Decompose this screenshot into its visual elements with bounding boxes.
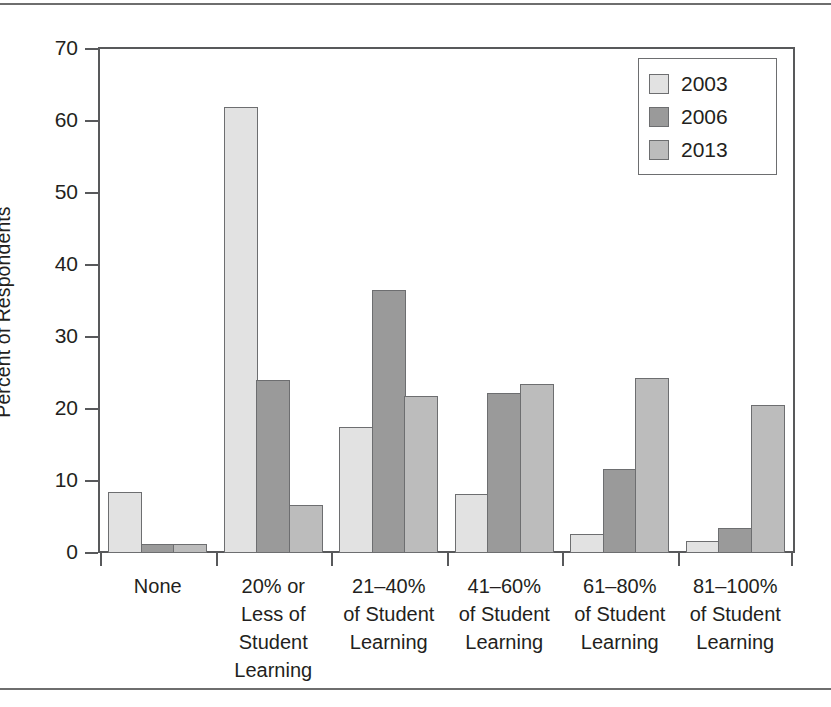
y-axis-tick-label: 40 xyxy=(55,252,78,276)
bar xyxy=(372,290,406,553)
x-axis-label-line: Learning xyxy=(680,628,792,656)
y-axis-tick-mark xyxy=(85,480,98,482)
y-axis-tick-label: 30 xyxy=(55,324,78,348)
bar xyxy=(718,528,752,553)
legend-label: 2003 xyxy=(681,72,728,96)
bar xyxy=(686,541,720,553)
y-axis-tick-label: 70 xyxy=(55,36,78,60)
x-axis-tick-slot xyxy=(216,553,332,567)
x-axis-label-line: None xyxy=(102,572,214,600)
bar xyxy=(108,492,142,553)
y-axis-tick-label: 20 xyxy=(55,396,78,420)
figure-bottom-rule xyxy=(0,688,831,690)
x-axis-tick-slot xyxy=(447,553,563,567)
legend-swatch-icon xyxy=(649,107,669,127)
bar xyxy=(751,405,785,553)
y-axis-tick-label: 0 xyxy=(66,540,78,564)
x-axis-label: None xyxy=(100,572,216,684)
x-axis-label-line: of Student xyxy=(449,600,561,628)
y-axis-tick-mark xyxy=(85,336,98,338)
bar xyxy=(339,427,373,553)
y-axis-tick-label: 60 xyxy=(55,108,78,132)
x-axis-label-line: of Student xyxy=(680,600,792,628)
x-axis-label-line: 61–80% xyxy=(564,572,676,600)
x-axis-tick-mark xyxy=(678,553,680,566)
bar xyxy=(570,534,604,553)
x-axis-labels: None20% orLess ofStudentLearning21–40%of… xyxy=(100,572,793,684)
x-axis-label: 20% orLess ofStudentLearning xyxy=(216,572,332,684)
y-axis-tick-mark xyxy=(85,264,98,266)
bar xyxy=(256,380,290,553)
legend-label: 2013 xyxy=(681,138,728,162)
bar xyxy=(173,544,207,553)
legend-label: 2006 xyxy=(681,105,728,129)
bar-group xyxy=(100,49,216,553)
x-axis-tick-mark xyxy=(331,553,333,566)
bar-group xyxy=(331,49,447,553)
bar xyxy=(289,505,323,553)
y-axis-tick-mark xyxy=(85,120,98,122)
bar xyxy=(404,396,438,553)
y-axis-tick-label: 10 xyxy=(55,468,78,492)
legend-swatch-icon xyxy=(649,74,669,94)
x-axis-tick-slot xyxy=(331,553,447,567)
x-axis-label-line: 41–60% xyxy=(449,572,561,600)
bar xyxy=(487,393,521,553)
legend-entry: 2006 xyxy=(649,100,766,133)
y-axis-tick-mark xyxy=(85,48,98,50)
chart-legend: 200320062013 xyxy=(638,58,777,175)
legend-entry: 2003 xyxy=(649,67,766,100)
x-axis-label-line: Learning xyxy=(564,628,676,656)
x-axis-label-line: of Student xyxy=(333,600,445,628)
x-axis-label-line: 21–40% xyxy=(333,572,445,600)
bar-group xyxy=(216,49,332,553)
x-axis-label-line: Learning xyxy=(449,628,561,656)
x-axis-tick-slot xyxy=(678,553,794,567)
x-axis-ticks xyxy=(100,553,793,567)
x-axis-tick-mark xyxy=(100,553,102,566)
x-axis-label-line: Student xyxy=(218,628,330,656)
bar xyxy=(455,494,489,553)
x-axis-label: 61–80%of StudentLearning xyxy=(562,572,678,684)
x-axis-label-line: 20% or xyxy=(218,572,330,600)
x-axis-tick-slot xyxy=(562,553,678,567)
x-axis-label-line: of Student xyxy=(564,600,676,628)
bar-group xyxy=(447,49,563,553)
y-axis-tick-mark xyxy=(85,552,98,554)
x-axis-label: 41–60%of StudentLearning xyxy=(447,572,563,684)
legend-entry: 2013 xyxy=(649,133,766,166)
x-axis-tick-mark xyxy=(447,553,449,566)
x-axis-tick-mark xyxy=(562,553,564,566)
x-axis-label-line: Learning xyxy=(333,628,445,656)
bar xyxy=(603,469,637,553)
y-axis-tick-label: 50 xyxy=(55,180,78,204)
y-axis-tick-mark xyxy=(85,408,98,410)
bar xyxy=(141,544,175,553)
y-axis-title: Percent of Respondents xyxy=(0,182,15,442)
x-axis-tick-mark xyxy=(791,553,793,566)
x-axis-label-line: 81–100% xyxy=(680,572,792,600)
bar xyxy=(224,107,258,553)
x-axis-label: 21–40%of StudentLearning xyxy=(331,572,447,684)
x-axis-tick-mark xyxy=(216,553,218,566)
legend-swatch-icon xyxy=(649,140,669,160)
y-axis-tick-mark xyxy=(85,192,98,194)
x-axis-tick-slot xyxy=(100,553,216,567)
figure-container: Percent of Respondents 010203040506070 N… xyxy=(0,0,831,707)
x-axis-label-line: Less of xyxy=(218,600,330,628)
bar xyxy=(520,384,554,553)
x-axis-label-line: Learning xyxy=(218,656,330,684)
x-axis-label: 81–100%of StudentLearning xyxy=(678,572,794,684)
bar xyxy=(635,378,669,553)
figure-top-rule xyxy=(0,3,831,5)
